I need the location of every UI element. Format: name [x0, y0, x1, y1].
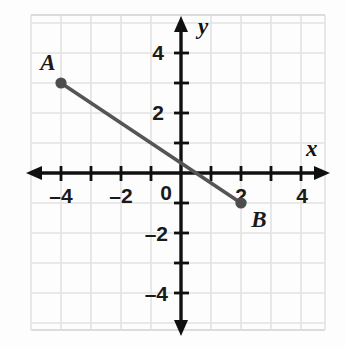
x-tick-label-4: 4: [296, 184, 308, 207]
y-tick-label-neg2: –2: [145, 222, 168, 245]
point-a-label: A: [38, 50, 55, 75]
point-a-marker: [55, 77, 66, 88]
coordinate-plane-figure: –4 –2 2 4 0 4 2 –2 –4 y x A B: [0, 0, 346, 347]
origin-label: 0: [160, 181, 172, 204]
point-b-marker: [235, 197, 246, 208]
point-b-label: B: [250, 207, 266, 232]
x-tick-label-neg2: –2: [109, 184, 132, 207]
x-axis-label: x: [305, 136, 318, 161]
x-tick-label-neg4: –4: [49, 184, 73, 207]
y-tick-label-2: 2: [152, 101, 164, 124]
y-axis-label: y: [195, 14, 209, 39]
coordinate-plane-svg: –4 –2 2 4 0 4 2 –2 –4 y x A B: [0, 0, 346, 347]
x-axis: [26, 166, 330, 180]
y-tick-label-4: 4: [152, 41, 164, 64]
y-tick-label-neg4: –4: [145, 282, 169, 305]
y-axis: [174, 16, 188, 336]
